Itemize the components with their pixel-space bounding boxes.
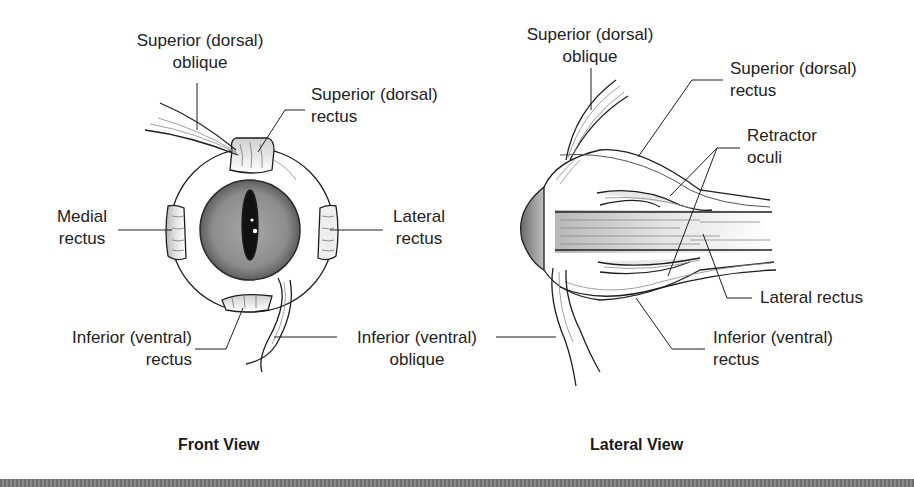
caption-lateral-view: Lateral View xyxy=(590,436,683,454)
label-retractor-oculi: Retractor oculi xyxy=(747,125,817,169)
label-front-superior-rectus: Superior (dorsal) rectus xyxy=(311,84,438,128)
eye-muscles-figure: Superior (dorsal) oblique Superior (dors… xyxy=(0,0,914,487)
label-lateral-inferior-rectus: Inferior (ventral) rectus xyxy=(713,327,833,371)
label-front-medial-rectus: Medial rectus xyxy=(48,206,116,250)
label-lateral-superior-oblique: Superior (dorsal) oblique xyxy=(510,24,670,68)
label-front-superior-oblique: Superior (dorsal) oblique xyxy=(120,30,280,74)
label-front-lateral-rectus: Lateral rectus xyxy=(386,206,452,250)
label-lateral-superior-rectus: Superior (dorsal) rectus xyxy=(730,58,857,102)
bottom-divider-bar xyxy=(0,479,914,487)
label-front-inferior-rectus: Inferior (ventral) rectus xyxy=(40,327,192,371)
label-lateral-lateral-rectus: Lateral rectus xyxy=(760,287,863,309)
caption-front-view: Front View xyxy=(178,436,260,454)
label-inferior-oblique: Inferior (ventral) oblique xyxy=(339,327,495,371)
